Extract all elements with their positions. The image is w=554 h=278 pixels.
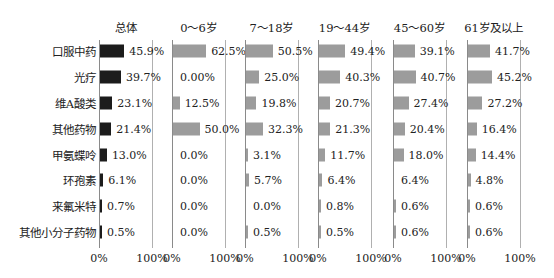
bar bbox=[468, 122, 477, 135]
tick-label-100: 100% bbox=[504, 252, 535, 265]
bar bbox=[468, 148, 476, 161]
panel-title: 61岁及以上 bbox=[464, 19, 523, 35]
value-label: 45.2% bbox=[497, 71, 532, 84]
panel-5: 61岁及以上41.7%45.2%27.2%16.4%14.4%4.8%0.6%0… bbox=[0, 0, 554, 278]
value-label: 0.6% bbox=[475, 226, 503, 239]
value-label: 27.2% bbox=[487, 97, 522, 110]
bar bbox=[468, 71, 492, 84]
bar bbox=[468, 174, 471, 187]
bar bbox=[468, 200, 470, 213]
small-multiples-bar-chart: 口服中药光疗维A酸类其他药物甲氨蝶呤环孢素来氟米特其他小分子药物 总体45.9%… bbox=[0, 0, 554, 278]
value-label: 4.8% bbox=[476, 174, 504, 187]
bar bbox=[468, 97, 482, 110]
value-label: 0.6% bbox=[475, 200, 503, 213]
tick-label-0: 0% bbox=[458, 252, 475, 265]
value-label: 14.4% bbox=[481, 148, 516, 161]
value-label: 41.7% bbox=[495, 45, 530, 58]
value-label: 16.4% bbox=[482, 122, 517, 135]
bar bbox=[468, 45, 490, 58]
bar bbox=[468, 226, 470, 239]
